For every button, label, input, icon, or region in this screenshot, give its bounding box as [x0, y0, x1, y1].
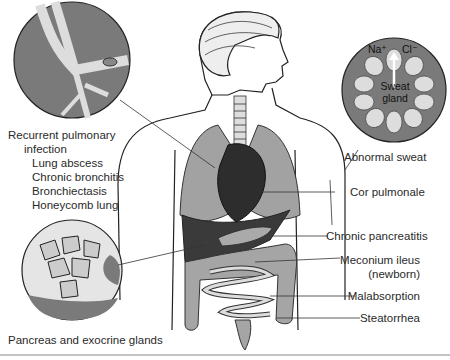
label-pancreas-glands: Pancreas and exocrine glands [8, 333, 163, 347]
label-newborn: (newborn) [368, 267, 420, 281]
trachea [234, 96, 246, 146]
label-chronic-pancreatitis: Chronic pancreatitis [326, 229, 428, 243]
label-bronchiectasis: Bronchiectasis [32, 184, 107, 198]
label-recurrent-pulmonary: Recurrent pulmonary [8, 128, 115, 142]
label-malabsorption: Malabsorption [348, 289, 420, 303]
label-infection: infection [24, 142, 67, 156]
label-abnormal-sweat: Abnormal sweat [344, 150, 426, 164]
label-honeycomb-lung: Honeycomb lung [32, 198, 118, 212]
label-gland: gland [380, 92, 410, 104]
bronchi-detail-circle [14, 2, 130, 118]
head [199, 12, 288, 95]
label-na-ion: Na⁺ [368, 43, 387, 55]
label-cor-pulmonale: Cor pulmonale [350, 185, 425, 199]
label-meconium-ileus: Meconium ileus [340, 253, 420, 267]
label-lung-abscess: Lung abscess [32, 156, 103, 170]
pancreas-tissue-circle [22, 220, 122, 320]
label-chronic-bronchitis: Chronic bronchitis [32, 170, 124, 184]
label-sweat: Sweat [380, 80, 410, 92]
label-cl-ion: Cl⁻ [402, 43, 418, 55]
label-steatorrhea: Steatorrhea [360, 311, 420, 325]
